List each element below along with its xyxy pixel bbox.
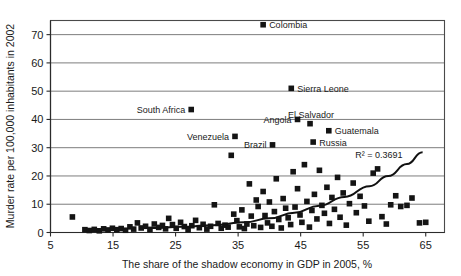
labeled-data-point-brazil	[270, 142, 276, 148]
data-point	[212, 202, 218, 208]
data-point	[362, 203, 368, 209]
point-label-el-salvador: El Salvador	[288, 110, 334, 120]
data-point	[324, 184, 330, 190]
data-point	[393, 193, 399, 199]
data-point	[290, 169, 296, 175]
point-label-sierra-leone: Sierra Leone	[297, 84, 349, 94]
data-point	[357, 194, 363, 200]
data-point	[131, 226, 137, 232]
data-point	[332, 207, 338, 213]
data-point	[285, 215, 291, 221]
y-tick-label-0: 0	[37, 227, 43, 239]
data-point	[417, 220, 423, 226]
y-tick-label-70: 70	[31, 29, 43, 41]
data-point	[314, 216, 320, 222]
data-point	[228, 153, 234, 159]
data-point	[273, 176, 279, 182]
x-tick-label-65: 65	[420, 239, 432, 251]
data-point	[312, 192, 318, 198]
y-tick-label-40: 40	[31, 113, 43, 125]
data-point	[239, 207, 245, 213]
data-point	[288, 222, 294, 228]
r-squared-annotation: R² = 0.3691	[355, 150, 402, 160]
x-axis-ticks: 5152535455565	[47, 233, 431, 251]
gridlines	[51, 35, 445, 205]
data-point	[248, 213, 254, 219]
data-point	[304, 199, 310, 205]
data-point	[384, 221, 390, 227]
y-tick-label-50: 50	[31, 85, 43, 97]
data-point	[269, 223, 275, 229]
data-point	[251, 223, 257, 229]
data-point	[398, 204, 404, 210]
data-point	[388, 202, 394, 208]
data-point	[91, 227, 97, 233]
labeled-data-point-russia	[310, 139, 316, 145]
data-point	[70, 214, 76, 220]
scatter-chart-figure: 010203040506070 5152535455565 ColombiaSi…	[0, 0, 461, 276]
y-tick-label-60: 60	[31, 57, 43, 69]
point-label-colombia: Colombia	[269, 20, 307, 30]
data-point	[337, 214, 343, 220]
data-point	[335, 175, 341, 181]
y-axis-ticks: 010203040506070	[31, 29, 50, 239]
data-point	[350, 180, 356, 186]
point-label-south-africa: South Africa	[137, 105, 186, 115]
annotation-group: R² = 0.3691	[355, 150, 402, 160]
plot-frame	[51, 21, 445, 233]
labeled-data-point-colombia	[260, 22, 266, 28]
chart-canvas: 010203040506070 5152535455565 ColombiaSi…	[0, 0, 461, 276]
data-point	[307, 224, 313, 230]
data-point	[340, 190, 346, 196]
x-tick-label-25: 25	[169, 239, 181, 251]
data-point	[283, 205, 289, 211]
labeled-data-point-el-salvador	[307, 121, 313, 127]
data-point	[247, 181, 253, 187]
labeled-data-point-south-africa	[188, 107, 194, 113]
data-point	[317, 168, 323, 174]
data-point	[302, 162, 308, 168]
data-point	[193, 218, 199, 224]
data-point	[272, 209, 278, 215]
data-point	[135, 220, 141, 226]
data-point	[366, 218, 372, 224]
x-tick-label-35: 35	[232, 239, 244, 251]
data-point	[255, 204, 261, 210]
data-point	[253, 197, 259, 203]
x-tick-label-5: 5	[47, 239, 53, 251]
y-tick-label-20: 20	[31, 170, 43, 182]
labeled-data-point-venezuela	[232, 134, 238, 140]
labeled-data-point-guatemala	[326, 128, 332, 134]
data-point	[375, 166, 381, 172]
point-label-russia: Russia	[319, 138, 347, 148]
data-point	[409, 195, 415, 201]
x-axis-title: The share of the shadow economy in GDP i…	[122, 258, 372, 270]
data-point	[354, 210, 360, 216]
data-point	[292, 204, 298, 210]
data-point	[237, 224, 243, 230]
x-tick-label-55: 55	[357, 239, 369, 251]
data-point	[86, 228, 92, 234]
data-point	[258, 225, 264, 231]
y-axis-title: Murder rate per 100,000 inhabitants in 2…	[4, 24, 16, 228]
data-point	[322, 210, 328, 216]
labeled-data-point-sierra-leone	[288, 86, 294, 92]
point-label-brazil: Brazil	[244, 140, 267, 150]
data-point	[280, 196, 286, 202]
data-point	[278, 225, 284, 231]
point-label-venezuela: Venezuela	[187, 132, 229, 142]
point-label-guatemala: Guatemala	[335, 126, 379, 136]
data-point	[295, 186, 301, 192]
data-point	[404, 203, 410, 209]
data-point	[231, 211, 237, 217]
y-tick-label-30: 30	[31, 142, 43, 154]
data-point	[267, 199, 273, 205]
data-point	[260, 189, 266, 195]
data-point	[299, 220, 305, 226]
data-point	[347, 201, 353, 207]
data-point	[327, 221, 333, 227]
labeled-point-group: ColombiaSierra LeoneSouth AfricaAngolaEl…	[137, 20, 379, 150]
y-tick-label-10: 10	[31, 198, 43, 210]
data-point	[166, 216, 172, 222]
data-point	[344, 222, 350, 228]
